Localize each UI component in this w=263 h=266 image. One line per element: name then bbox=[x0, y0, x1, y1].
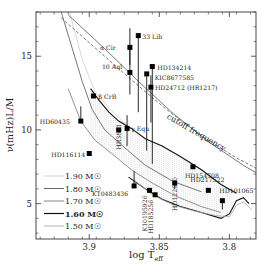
star-marker bbox=[125, 126, 130, 131]
star-marker bbox=[91, 94, 96, 99]
star-point: HD185256 bbox=[147, 192, 158, 233]
legend-entry: 1.60 M☉ bbox=[44, 209, 103, 219]
x-tick-label: 3.8 bbox=[223, 242, 237, 252]
star-label: HD122970 bbox=[171, 177, 178, 211]
star-label: β CrB bbox=[98, 93, 116, 101]
star-point: HD60435 bbox=[40, 106, 84, 125]
star-marker bbox=[148, 85, 153, 90]
legend-entry: 1.70 M☉ bbox=[44, 197, 101, 206]
star-label: HD134214 bbox=[157, 64, 191, 71]
y-tick-label: 5 bbox=[27, 199, 32, 209]
cutoff-frequency-label: cutoff frequency bbox=[165, 112, 228, 153]
star-label: γ Equ bbox=[131, 125, 149, 133]
star-point: β CrB bbox=[91, 93, 117, 101]
legend-entry: 1.80 M☉ bbox=[44, 185, 101, 194]
star-marker bbox=[150, 64, 155, 69]
star-marker bbox=[136, 33, 141, 38]
star-point: HD116114 bbox=[51, 151, 91, 158]
star-marker bbox=[127, 70, 132, 75]
chart-container: 33 Libα CirHD134214KIC867758510 AqlHD247… bbox=[0, 0, 263, 266]
star-point: HD24712 (HR1217) bbox=[148, 75, 217, 122]
star-point: HD122970 bbox=[171, 177, 178, 211]
star-point: HR3831 bbox=[115, 124, 122, 150]
star-label: KIC8677585 bbox=[155, 74, 194, 81]
x-tick-label: 3.9 bbox=[82, 242, 96, 252]
star-marker bbox=[147, 188, 152, 193]
legend-entry: 1.50 M☉ bbox=[44, 222, 101, 231]
legend-label: 1.60 M☉ bbox=[65, 209, 103, 219]
star-label: HD116114 bbox=[51, 151, 85, 158]
star-marker bbox=[153, 192, 158, 197]
star-marker bbox=[132, 183, 137, 188]
y-tick-label: 15 bbox=[21, 51, 32, 61]
annotations: cutoff frequency bbox=[165, 112, 228, 153]
scatter-plot: 33 Libα CirHD134214KIC867758510 AqlHD247… bbox=[0, 0, 263, 266]
star-label: HD217522 bbox=[190, 176, 224, 183]
y-tick-label: 10 bbox=[21, 125, 32, 135]
legend-label: 1.70 M☉ bbox=[65, 197, 101, 206]
star-label: HD24712 (HR1217) bbox=[155, 84, 218, 91]
star-label: HR3831 bbox=[115, 124, 122, 150]
legend-label: 1.80 M☉ bbox=[65, 185, 101, 194]
star-marker bbox=[144, 71, 149, 76]
star-marker bbox=[190, 164, 195, 169]
star-label: HD60435 bbox=[40, 118, 70, 125]
star-marker bbox=[206, 188, 211, 193]
legend-label: 1.50 M☉ bbox=[65, 222, 101, 231]
star-label: HD185256 bbox=[147, 200, 154, 234]
legend-entry: 1.90 M☉ bbox=[44, 172, 101, 181]
star-marker bbox=[78, 119, 83, 124]
star-marker bbox=[220, 198, 225, 203]
star-label: 33 Lib bbox=[142, 33, 162, 40]
track-1_80 bbox=[61, 12, 201, 192]
y-axis-label: ν(mHz)L/M bbox=[4, 97, 15, 152]
star-label: 10 Aql bbox=[102, 63, 122, 71]
star-point: 10 Aql bbox=[102, 47, 132, 94]
legend: 1.90 M☉1.80 M☉1.70 M☉1.60 M☉1.50 M☉ bbox=[44, 172, 103, 231]
star-marker bbox=[87, 151, 92, 156]
star-label: HD101065 bbox=[219, 187, 253, 194]
star-label: α Cir bbox=[100, 44, 116, 51]
legend-label: 1.90 M☉ bbox=[65, 172, 101, 181]
